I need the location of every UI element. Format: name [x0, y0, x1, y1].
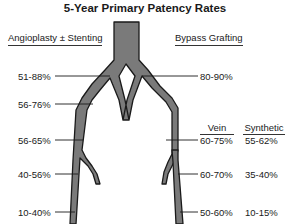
synthetic-row-2: 35-40% [245, 169, 278, 180]
angioplasty-label-2: 56-76% [18, 99, 51, 110]
vein-row-1: 60-75% [200, 135, 233, 146]
bypass-top-label: 80-90% [200, 71, 233, 82]
artery-diagram [0, 0, 290, 224]
vessel-right-lower [172, 150, 183, 224]
angioplasty-label-5: 10-40% [18, 207, 51, 218]
angioplasty-label-1: 51-88% [18, 71, 51, 82]
vein-column-header: Vein [200, 122, 234, 135]
vein-row-3: 50-60% [200, 207, 233, 218]
synthetic-row-3: 10-15% [245, 207, 278, 218]
angioplasty-label-4: 40-56% [18, 169, 51, 180]
synthetic-row-1: 55-62% [245, 135, 278, 146]
angioplasty-label-3: 56-65% [18, 135, 51, 146]
vein-row-2: 60-70% [200, 169, 233, 180]
synthetic-column-header: Synthetic [243, 122, 285, 135]
vessel-trunk [70, 22, 178, 224]
